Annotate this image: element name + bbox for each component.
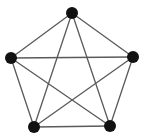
graph-edge-v3-v5 <box>11 58 110 126</box>
graph-edge-v3-v4 <box>34 126 110 127</box>
vertex-layer <box>5 7 139 133</box>
graph-canvas <box>0 0 145 137</box>
graph-vertex-left <box>5 52 17 64</box>
graph-edge-v1-v3 <box>72 13 110 126</box>
graph-vertex-bottom-right <box>104 120 116 132</box>
graph-edge-v4-v5 <box>11 58 34 127</box>
graph-vertex-bottom-left <box>28 121 40 133</box>
graph-figure <box>0 0 145 137</box>
graph-edge-v1-v2 <box>72 13 133 57</box>
edge-layer <box>11 13 133 127</box>
graph-edge-v2-v4 <box>34 57 133 127</box>
graph-edge-v5-v1 <box>11 13 72 58</box>
graph-edge-v2-v5 <box>11 57 133 58</box>
graph-edge-v2-v3 <box>110 57 133 126</box>
graph-vertex-top <box>66 7 78 19</box>
graph-vertex-right <box>127 51 139 63</box>
graph-edge-v1-v4 <box>34 13 72 127</box>
